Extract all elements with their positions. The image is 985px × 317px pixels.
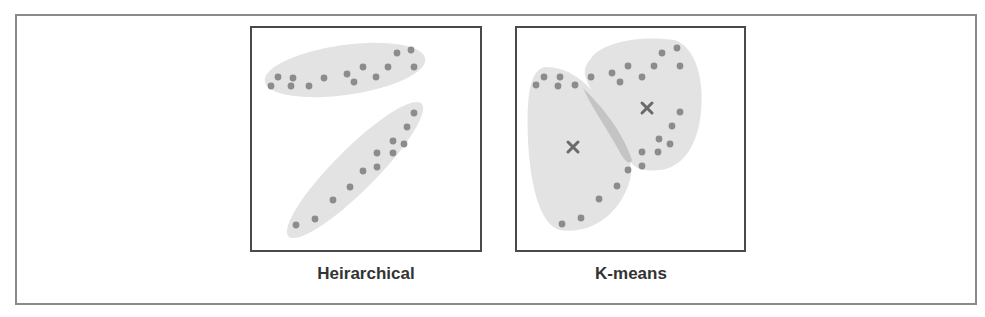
data-point [555,83,562,90]
data-point [390,138,397,145]
data-point [390,150,397,157]
data-point [275,74,282,81]
data-point [588,74,595,81]
data-point [401,141,408,148]
data-point [411,110,418,117]
data-point [344,71,351,78]
data-point [625,63,632,70]
data-point [330,197,337,204]
data-point [617,79,624,86]
data-point [677,63,684,70]
data-point [609,70,616,77]
data-point [557,74,564,81]
data-point [321,75,328,82]
data-point [360,168,367,175]
clustering-comparison-figure [0,0,985,317]
data-point [374,164,381,171]
data-point [293,222,300,229]
data-point [347,184,354,191]
data-point [674,45,681,52]
hierarchical-panel [251,27,481,251]
data-point [268,83,275,90]
data-point [596,196,603,203]
data-point [572,82,579,89]
data-point [614,183,621,190]
data-point [373,74,380,81]
data-point [374,150,381,157]
data-point [385,64,392,71]
data-point [288,83,295,90]
data-point [656,136,663,143]
data-point [408,47,415,54]
data-point [578,215,585,222]
kmeans-panel [516,27,745,251]
data-point [394,50,401,57]
data-point [351,79,358,86]
data-point [639,163,646,170]
data-point [290,75,297,82]
data-point [533,82,540,89]
data-point [659,50,666,57]
data-point [639,149,646,156]
data-point [667,141,674,148]
data-point [541,74,548,81]
kmeans-caption: K-means [516,264,746,284]
data-point [360,64,367,71]
data-point [404,124,411,131]
data-point [669,123,676,130]
data-point [625,167,632,174]
data-point [411,64,418,71]
data-point [306,83,313,90]
hierarchical-caption: Heirarchical [251,264,481,284]
data-point [312,216,319,223]
data-point [655,149,662,156]
data-point [639,74,646,81]
data-point [677,109,684,116]
data-point [559,221,566,228]
data-point [651,63,658,70]
